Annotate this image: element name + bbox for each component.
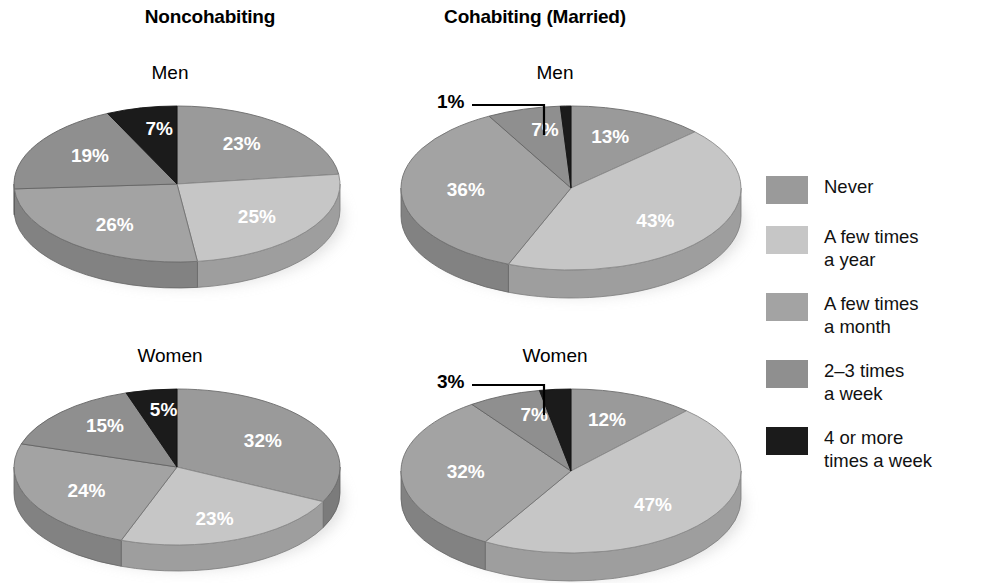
pie-slice-label: 43%: [636, 210, 674, 231]
callout-label-cohab-men: 1%: [437, 91, 464, 113]
pie-title-noncohab-men: Men: [70, 62, 270, 84]
pie-slice-label: 26%: [96, 214, 134, 235]
callout-label-cohab-women: 3%: [437, 371, 464, 393]
legend-label-few-times-year: A few times a year: [824, 225, 919, 271]
callout-leader-cohab-women: [470, 375, 580, 420]
pie-slice-label: 12%: [588, 409, 626, 430]
callout-leader-cohab-men: [470, 95, 580, 140]
legend-swatch-few-times-year: [766, 226, 808, 254]
pie-slice-label: 36%: [447, 179, 485, 200]
column-title-noncohabiting: Noncohabiting: [60, 6, 360, 28]
pie-slice-label: 32%: [244, 430, 282, 451]
legend-item-never: Never: [766, 175, 991, 204]
pie-title-cohab-women: Women: [455, 345, 655, 367]
legend-label-never: Never: [824, 175, 873, 198]
legend-label-few-times-month: A few times a month: [824, 292, 919, 338]
legend-swatch-four-or-more-week: [766, 427, 808, 455]
legend-item-two-three-week: 2–3 times a week: [766, 359, 991, 405]
pie-chart-noncohab-men: 23%25%26%19%7%: [8, 100, 353, 290]
legend-label-four-or-more-week: 4 or more times a week: [824, 426, 932, 472]
pie-slice-label: 23%: [223, 133, 261, 154]
legend: Never A few times a year A few times a m…: [766, 175, 991, 493]
pie-slice-label: 7%: [145, 118, 173, 139]
legend-swatch-two-three-week: [766, 360, 808, 388]
legend-label-two-three-week: 2–3 times a week: [824, 359, 904, 405]
pie-title-cohab-men: Men: [455, 62, 655, 84]
pie-title-noncohab-women: Women: [70, 345, 270, 367]
column-title-cohabiting: Cohabiting (Married): [370, 6, 700, 28]
legend-item-few-times-year: A few times a year: [766, 225, 991, 271]
legend-swatch-never: [766, 176, 808, 204]
pie-slice-label: 13%: [591, 126, 629, 147]
pie-slice-label: 24%: [67, 480, 105, 501]
legend-item-few-times-month: A few times a month: [766, 292, 991, 338]
pie-slice-label: 15%: [86, 415, 124, 436]
pie-slice-label: 19%: [71, 145, 109, 166]
pie-slice-label: 32%: [447, 461, 485, 482]
pie-slice-label: 25%: [238, 206, 276, 227]
pie-chart-noncohab-women: 32%23%24%15%5%: [8, 383, 353, 573]
pie-slice-label: 23%: [196, 508, 234, 529]
pie-slice-label: 47%: [634, 494, 672, 515]
legend-item-four-or-more-week: 4 or more times a week: [766, 426, 991, 472]
pie-slice-label: 5%: [150, 399, 178, 420]
legend-swatch-few-times-month: [766, 293, 808, 321]
